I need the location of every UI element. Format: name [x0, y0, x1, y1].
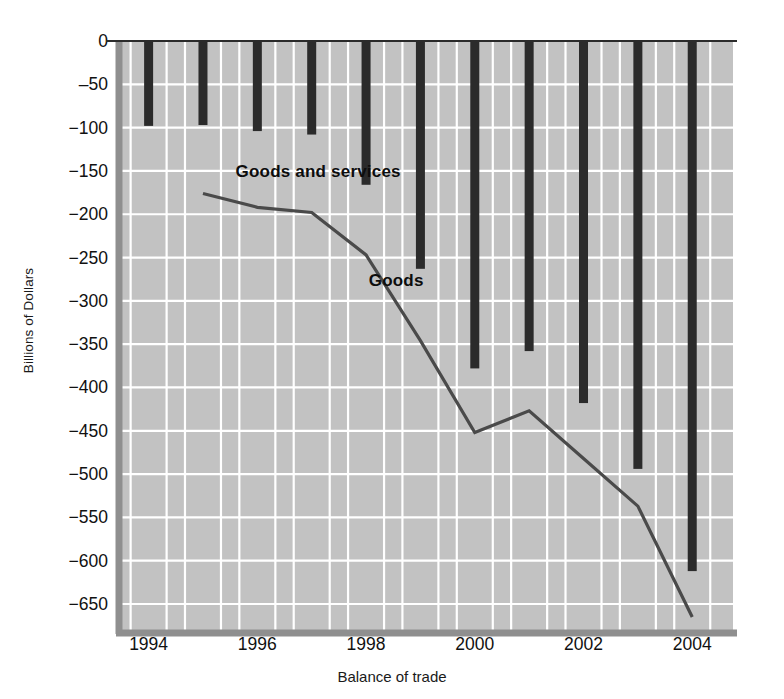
x-axis-title: Balance of trade [0, 668, 784, 685]
bar [525, 41, 534, 351]
bar [307, 41, 316, 135]
series-annotation-label: Goods [369, 271, 424, 291]
x-axis-tick-label: 1996 [238, 634, 277, 655]
plot-area [0, 0, 784, 699]
bar [470, 41, 479, 368]
x-axis-tick-label: 2004 [673, 634, 712, 655]
x-axis-tick-label: 1994 [129, 634, 168, 655]
x-axis-tick-label: 1998 [347, 634, 386, 655]
x-axis-tick-label: 2000 [455, 634, 494, 655]
bar [198, 41, 207, 125]
bar [579, 41, 588, 403]
chart-figure: Billions of Dollars 0‒50−100−150−200−250… [0, 0, 784, 699]
bar [144, 41, 153, 126]
bar [633, 41, 642, 469]
bar [688, 41, 697, 571]
series-annotation-label: Goods and services [236, 162, 401, 182]
bar [253, 41, 262, 131]
x-axis-tick-label: 2002 [564, 634, 603, 655]
bar [416, 41, 425, 269]
